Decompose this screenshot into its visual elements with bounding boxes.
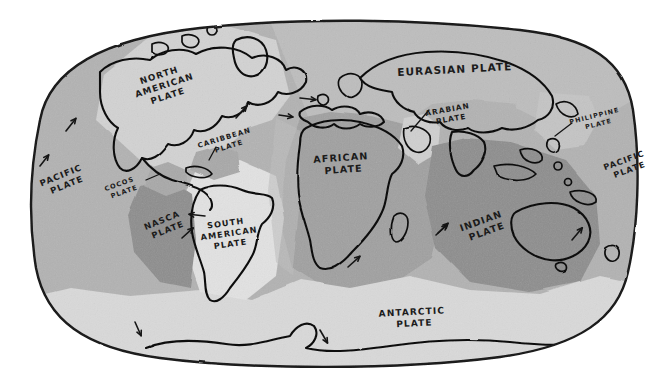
map-canvas: PACIFICPLATEPACIFICPLATENORTHAMERICANPLA…	[0, 0, 659, 391]
tectonic-plates-map: PACIFICPLATEPACIFICPLATENORTHAMERICANPLA…	[0, 0, 659, 391]
plate-fill-layer	[0, 0, 659, 391]
